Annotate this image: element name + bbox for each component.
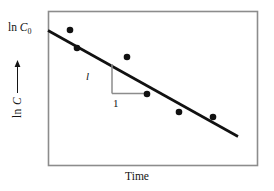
data-point bbox=[124, 54, 131, 61]
scatter-plot bbox=[0, 0, 274, 191]
data-point bbox=[176, 109, 183, 116]
slope-run-label: 1 bbox=[113, 97, 119, 109]
figure-container: ln C0 ln C l 1 Time bbox=[0, 0, 274, 191]
data-point-group bbox=[67, 27, 217, 121]
data-point bbox=[144, 91, 151, 98]
data-point bbox=[210, 114, 217, 121]
slope-rise-label: l bbox=[86, 70, 89, 82]
data-point bbox=[74, 45, 81, 52]
x-axis-label: Time bbox=[0, 170, 274, 182]
data-point bbox=[67, 27, 74, 34]
